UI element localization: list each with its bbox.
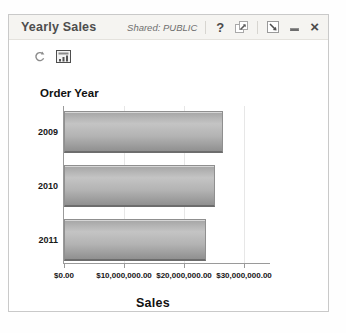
bar-2009[interactable]	[64, 111, 223, 153]
bar-2010[interactable]	[64, 165, 215, 207]
category-label-2010: 2010	[20, 181, 58, 191]
gridline	[244, 106, 245, 263]
close-button[interactable]: ×	[309, 20, 320, 34]
x-axis-tick	[184, 264, 185, 268]
titlebar: Yearly Sales Shared: PUBLIC ?	[9, 15, 328, 40]
window-title: Yearly Sales	[21, 20, 96, 34]
chart-view-icon[interactable]	[56, 50, 71, 65]
titlebar-controls: Shared: PUBLIC ? ×	[127, 20, 320, 35]
x-tick-label: $30,000,000.00	[199, 271, 289, 280]
popout-icon[interactable]	[234, 20, 249, 35]
divider	[257, 21, 258, 34]
refresh-icon[interactable]	[33, 50, 48, 65]
chartlet-window: Yearly Sales Shared: PUBLIC ?	[8, 14, 329, 312]
divider	[205, 21, 206, 34]
resize-icon[interactable]	[266, 20, 281, 35]
category-label-2011: 2011	[20, 235, 58, 245]
x-axis-title: Sales	[63, 296, 243, 310]
shared-status: Shared: PUBLIC	[127, 22, 197, 33]
x-axis-tick	[64, 264, 65, 268]
help-button[interactable]: ?	[214, 20, 226, 35]
bar-2011[interactable]	[64, 219, 206, 261]
minimize-dash-icon	[290, 28, 299, 31]
x-axis-tick	[244, 264, 245, 268]
y-axis-title: Order Year	[40, 87, 99, 99]
minimize-button[interactable]	[289, 20, 301, 34]
chartlet-toolbar	[33, 48, 71, 66]
bar-chart-plot: 200920102011$0.00$10,000,000.00$20,000,0…	[63, 106, 270, 264]
x-axis-tick	[124, 264, 125, 268]
category-label-2009: 2009	[20, 127, 58, 137]
